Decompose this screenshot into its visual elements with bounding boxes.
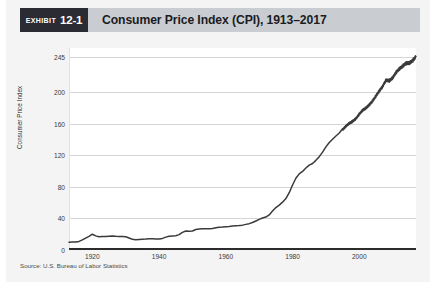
x-axis-tick-label: 1980 (285, 253, 300, 260)
x-axis-tick-label: 2000 (352, 253, 367, 260)
exhibit-badge-word: Exhibit (26, 17, 56, 24)
y-axis-tick-label: 200 (23, 89, 65, 96)
y-axis-tick-label: 245 (23, 53, 65, 60)
exhibit-badge-number: 12-1 (60, 14, 82, 26)
y-axis-tick-labels: 04080120160200245 (20, 48, 65, 250)
source-note: Source: U.S. Bureau of Labor Statistics (20, 262, 128, 269)
x-axis-tick-label: 1920 (85, 253, 100, 260)
y-axis-tick-label: 120 (23, 152, 65, 159)
y-axis-tick-label: 80 (23, 183, 65, 190)
y-axis-tick-label: 0 (23, 247, 65, 254)
y-axis-tick-label: 160 (23, 120, 65, 127)
cpi-series-svg (69, 48, 416, 250)
y-axis-tick-label: 40 (23, 215, 65, 222)
x-axis-tick-label: 1940 (152, 253, 167, 260)
cpi-line-chart: Consumer Price Index 04080120160200245 1… (20, 36, 420, 274)
x-axis-tick-label: 1960 (218, 253, 233, 260)
exhibit-title: Consumer Price Index (CPI), 1913–2017 (102, 8, 327, 32)
exhibit-card: Exhibit 12-1 Consumer Price Index (CPI),… (6, 0, 430, 282)
x-axis-line (69, 248, 416, 250)
plot-area (69, 48, 416, 250)
exhibit-badge: Exhibit 12-1 (20, 8, 88, 32)
